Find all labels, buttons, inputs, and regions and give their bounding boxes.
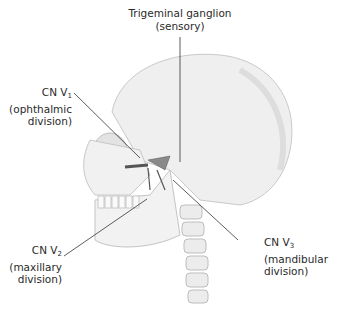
label-prefix: CN V	[32, 244, 58, 256]
label-cn-v2: CN V2 (maxillary division)	[2, 244, 62, 286]
label-line: (ophthalmic	[6, 103, 72, 116]
label-line: Trigeminal ganglion	[128, 7, 232, 20]
label-subscript: 3	[290, 242, 294, 250]
label-line: division)	[2, 273, 62, 286]
label-line: CN V1	[6, 86, 72, 103]
label-cn-v1: CN V1 (ophthalmic division)	[6, 86, 72, 128]
label-line: division)	[264, 265, 336, 278]
label-line: (maxillary	[2, 261, 62, 274]
label-trigeminal-ganglion: Trigeminal ganglion (sensory)	[128, 7, 232, 32]
label-subscript: 2	[58, 250, 62, 258]
label-prefix: CN V	[264, 236, 290, 248]
label-line: division)	[6, 115, 72, 128]
label-prefix: CN V	[42, 86, 68, 98]
cervical-spine	[180, 205, 208, 303]
label-line: CN V3	[264, 236, 336, 253]
label-line: (mandibular	[264, 253, 336, 266]
label-line: (sensory)	[128, 20, 232, 33]
label-line: CN V2	[2, 244, 62, 261]
label-subscript: 1	[68, 92, 72, 100]
label-cn-v3: CN V3 (mandibular division)	[264, 236, 336, 278]
